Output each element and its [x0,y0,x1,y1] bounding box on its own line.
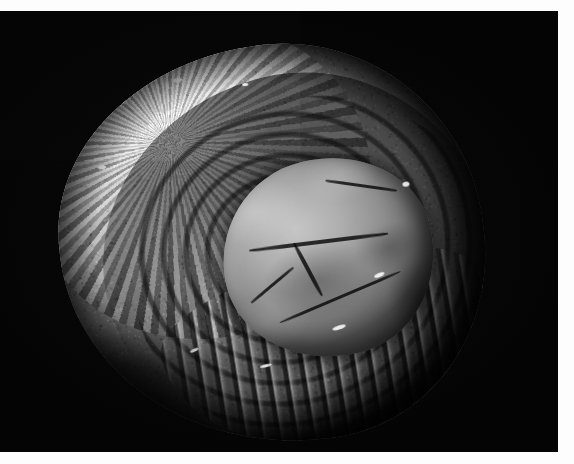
photographic-plate [0,0,574,464]
fossil-specimen [52,33,492,448]
photo-black-field [0,11,558,452]
specimen-body [40,24,503,452]
